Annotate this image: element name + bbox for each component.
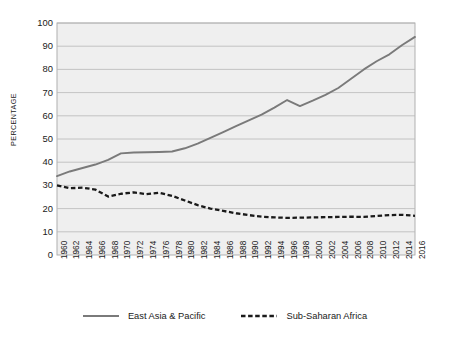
x-axis-tick: 1972 [137,241,145,259]
x-axis-tick: 1990 [252,241,260,259]
x-axis-tick: 1960 [61,241,69,259]
x-axis-tick: 1962 [73,241,81,259]
x-axis-tick: 2012 [393,241,401,259]
x-axis-tick: 2006 [355,241,363,259]
legend-label: East Asia & Pacific [128,311,206,321]
x-axis-tick: 1998 [303,241,311,259]
x-axis-tick: 1966 [99,241,107,259]
x-axis-tick: 1992 [265,241,273,259]
x-axis-tick-labels: 1960196219641966196819701972197419761978… [0,0,450,337]
x-axis-tick: 1982 [201,241,209,259]
x-axis-tick: 2004 [342,241,350,259]
x-axis-tick: 1974 [150,241,158,259]
x-axis-tick: 2016 [419,241,427,259]
chart-container: PERCENTAGE 1009080706050403020100 196019… [0,0,450,337]
x-axis-tick: 1976 [163,241,171,259]
legend-label: Sub-Saharan Africa [286,311,367,321]
x-axis-tick: 2002 [329,241,337,259]
x-axis-tick: 2014 [406,241,414,259]
legend-swatch-dashed-line [241,311,277,321]
x-axis-tick: 1968 [112,241,120,259]
x-axis-tick: 1964 [86,241,94,259]
chart-legend: East Asia & PacificSub-Saharan Africa [0,305,450,327]
x-axis-tick: 1978 [176,241,184,259]
x-axis-tick: 2008 [367,241,375,259]
x-axis-tick: 1984 [214,241,222,259]
x-axis-tick: 1980 [188,241,196,259]
x-axis-tick: 1970 [124,241,132,259]
legend-item[interactable]: Sub-Saharan Africa [241,311,367,321]
legend-swatch-solid-line [83,311,119,321]
x-axis-tick: 1994 [278,241,286,259]
x-axis-tick: 2010 [380,241,388,259]
legend-item[interactable]: East Asia & Pacific [83,311,206,321]
x-axis-tick: 1988 [240,241,248,259]
x-axis-tick: 2000 [316,241,324,259]
x-axis-tick: 1996 [291,241,299,259]
x-axis-tick: 1986 [227,241,235,259]
